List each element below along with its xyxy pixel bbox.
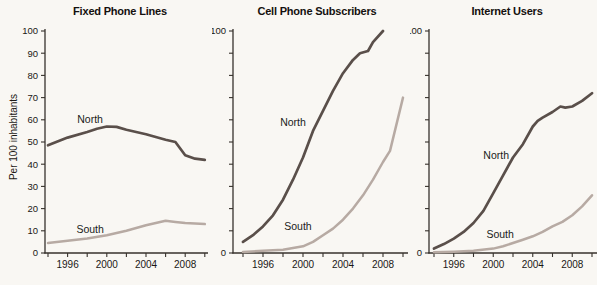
series-line-south (434, 195, 592, 252)
chart-panel-fixed-phone-lines: 01020304050607080901001996200020042008No… (0, 0, 212, 285)
y-tick-label: 40 (27, 159, 38, 170)
series-line-south (48, 221, 205, 243)
x-tick-label: 2008 (561, 259, 584, 270)
y-tick-label: 10 (27, 225, 38, 236)
y-tick-label: 60 (27, 114, 38, 125)
x-tick-label: 2004 (135, 259, 158, 270)
series-label-north: North (77, 113, 103, 125)
x-tick-label: 2008 (372, 259, 395, 270)
y-tick-label: 100 (410, 25, 422, 36)
series-line-north (434, 93, 592, 248)
y-tick-label: 80 (27, 70, 38, 81)
series-line-north (243, 31, 383, 242)
chart-canvas-cell-phone-subscribers: 01001996200020042008NorthSouth (212, 0, 410, 285)
chart-panel-cell-phone-subscribers: 01001996200020042008NorthSouth (212, 0, 410, 285)
y-tick-label: 20 (27, 203, 38, 214)
chart-canvas-internet-users: 01001996200020042008NorthSouth (410, 0, 597, 285)
chart-canvas-fixed-phone-lines: 01020304050607080901001996200020042008No… (0, 0, 212, 285)
x-tick-label: 2004 (332, 259, 355, 270)
y-tick-label: 0 (417, 247, 422, 258)
y-tick-label: 0 (221, 247, 226, 258)
x-tick-label: 2008 (174, 259, 197, 270)
y-tick-label: 90 (27, 48, 38, 59)
y-tick-label: 100 (22, 25, 38, 36)
series-label-south: South (284, 220, 312, 232)
y-tick-label: 30 (27, 181, 38, 192)
x-tick-label: 1996 (252, 259, 275, 270)
series-line-north (48, 127, 205, 160)
x-tick-label: 2004 (522, 259, 545, 270)
chart-panel-internet-users: 01001996200020042008NorthSouth (410, 0, 597, 285)
y-tick-label: 0 (33, 247, 38, 258)
x-tick-label: 2000 (96, 259, 119, 270)
series-label-north: North (280, 116, 306, 128)
series-label-north: North (483, 149, 509, 161)
y-tick-label: 50 (27, 136, 38, 147)
series-label-south: South (486, 228, 514, 240)
y-tick-label: 70 (27, 92, 38, 103)
series-line-south (243, 98, 403, 252)
series-label-south: South (76, 223, 104, 235)
x-tick-label: 1996 (443, 259, 466, 270)
x-tick-label: 1996 (56, 259, 79, 270)
three-panel-line-chart-figure: Fixed Phone Lines Cell Phone Subscribers… (0, 0, 597, 285)
y-tick-label: 100 (212, 25, 226, 36)
x-tick-label: 2000 (292, 259, 315, 270)
x-tick-label: 2000 (482, 259, 505, 270)
